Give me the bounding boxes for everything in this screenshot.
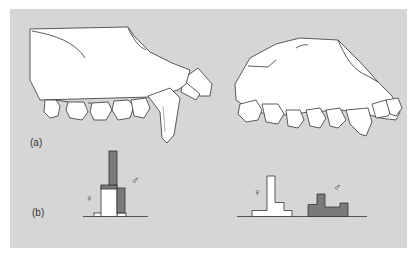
female-symbol-left: ♀ <box>85 193 93 204</box>
male-bin <box>101 185 117 189</box>
label-a: (a) <box>30 137 42 148</box>
label-b: (b) <box>32 207 44 218</box>
male-symbol-right: ♂ <box>333 182 341 193</box>
right-skull <box>235 38 402 136</box>
left-skull <box>30 27 212 143</box>
male-bin <box>109 151 117 185</box>
female-symbol-right: ♀ <box>253 187 261 198</box>
male-distribution <box>308 194 348 217</box>
male-bin <box>117 188 125 213</box>
male-symbol-left: ♂ <box>131 175 139 186</box>
male-bin <box>117 213 126 217</box>
female-bin <box>101 186 117 217</box>
figure-drawing <box>0 0 420 258</box>
